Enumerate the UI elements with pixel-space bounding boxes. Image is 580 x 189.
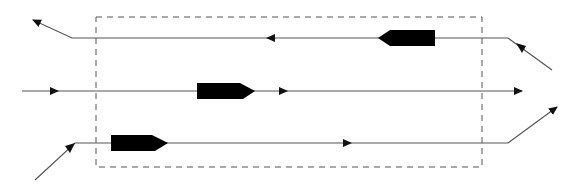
lane-top-path [33,20,552,70]
lane-top [33,20,552,70]
arrow-right-icon [279,87,288,95]
arrow-right-icon [50,87,59,95]
arrow-icon [516,43,526,53]
arrow-right-icon [343,139,352,147]
traffic-lane-diagram [0,0,580,189]
lane-middle [22,83,522,99]
ship-icon [197,83,255,99]
arrow-left-icon [266,34,275,42]
lane-bottom [35,107,557,180]
ship-icon [378,30,435,46]
ship-icon [111,135,168,151]
